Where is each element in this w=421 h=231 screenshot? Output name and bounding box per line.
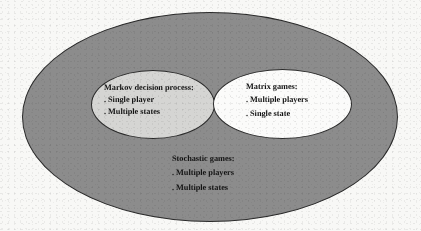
stochastic-games-title: Stochastic games: [172, 155, 235, 163]
stochastic-games-label: Stochastic games: .Multiple players .Mul… [172, 155, 235, 192]
stochastic-games-item-0: .Multiple players [172, 169, 235, 177]
stochastic-games-item-0-text: Multiple players [176, 168, 234, 177]
matrix-games-item-0-text: Multiple players [250, 95, 308, 104]
stochastic-games-item-1: .Multiple states [172, 184, 235, 192]
markov-decision-process-item-0: .Single player [104, 96, 194, 104]
matrix-games-item-1: .Single state [246, 110, 308, 118]
markov-decision-process-item-1-text: Multiple states [108, 107, 160, 116]
venn-diagram-figure: Markov decision process: .Single player … [0, 0, 421, 231]
matrix-games-label: Matrix games: .Multiple players .Single … [246, 83, 308, 118]
matrix-games-title: Matrix games: [246, 83, 308, 91]
markov-decision-process-label: Markov decision process: .Single player … [104, 84, 194, 116]
markov-decision-process-title: Markov decision process: [104, 84, 194, 92]
markov-decision-process-item-1: .Multiple states [104, 108, 194, 116]
stochastic-games-item-1-text: Multiple states [176, 183, 228, 192]
matrix-games-item-0: .Multiple players [246, 96, 308, 104]
matrix-games-item-1-text: Single state [250, 109, 290, 118]
markov-decision-process-item-0-text: Single player [108, 95, 154, 104]
